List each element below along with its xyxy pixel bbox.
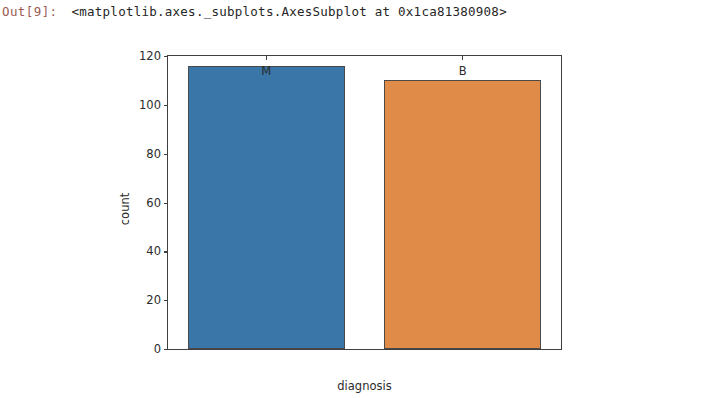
x-tick-mark [462, 56, 463, 60]
chart-axes: 020406080100120MB [167, 55, 562, 350]
x-tick-label: M [261, 64, 271, 78]
y-tick-label: 60 [146, 196, 161, 210]
y-tick-label: 20 [146, 293, 161, 307]
plot-area [168, 56, 561, 349]
y-tick-mark [164, 300, 168, 301]
output-repr-text: <matplotlib.axes._subplots.AxesSubplot a… [57, 0, 506, 19]
notebook-output-row: Out[9]: <matplotlib.axes._subplots.AxesS… [0, 0, 707, 28]
y-axis-label: count [118, 193, 132, 225]
y-tick-mark [164, 203, 168, 204]
matplotlib-figure: 020406080100120MB count diagnosis [60, 30, 660, 395]
y-tick-mark [164, 154, 168, 155]
y-tick-label: 120 [139, 49, 161, 63]
x-tick-label: B [459, 64, 467, 78]
y-tick-label: 100 [139, 98, 161, 112]
y-tick-label: 80 [146, 147, 161, 161]
bar-M [188, 66, 345, 349]
bar-B [384, 80, 541, 349]
x-tick-mark [266, 56, 267, 60]
y-tick-mark [164, 105, 168, 106]
y-tick-label: 0 [154, 342, 161, 356]
y-tick-mark [164, 349, 168, 350]
y-tick-mark [164, 251, 168, 252]
y-tick-label: 40 [146, 244, 161, 258]
y-tick-mark [164, 56, 168, 57]
x-axis-label: diagnosis [167, 379, 562, 393]
output-prompt: Out[9]: [0, 0, 57, 19]
